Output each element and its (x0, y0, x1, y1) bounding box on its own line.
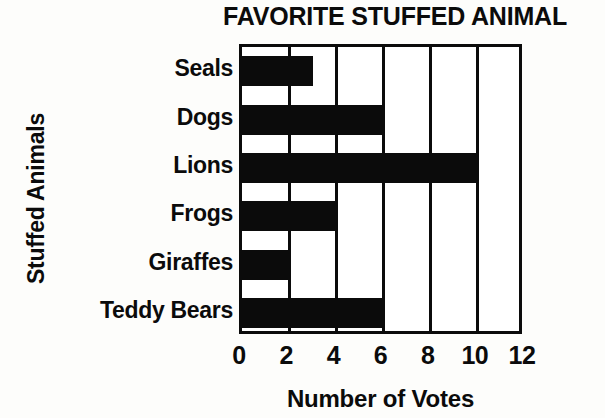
y-tick-label-teddy-bears: Teddy Bears (30, 297, 233, 323)
x-tick-label-8: 8 (405, 340, 451, 370)
bar-dogs (242, 105, 384, 135)
y-tick-label-seals: Seals (30, 55, 233, 81)
y-tick-label-dogs: Dogs (30, 104, 233, 130)
y-axis-tick-labels: SealsDogsLionsFrogsGiraffesTeddy Bears (30, 44, 233, 334)
x-axis-tick-labels: 024681012 (0, 340, 605, 374)
bar-lions (242, 153, 478, 183)
bar-row (242, 298, 525, 328)
y-tick-label-lions: Lions (30, 152, 233, 178)
bar-giraffes (242, 250, 289, 280)
x-tick-label-2: 2 (263, 340, 309, 370)
bar-chart-figure: FAVORITE STUFFED ANIMAL Stuffed Animals … (0, 0, 605, 418)
x-tick-label-0: 0 (216, 340, 262, 370)
bar-teddy-bears (242, 298, 384, 328)
y-tick-label-frogs: Frogs (30, 200, 233, 226)
x-tick-label-6: 6 (358, 340, 404, 370)
bar-frogs (242, 201, 336, 231)
bar-seals (242, 56, 313, 86)
x-tick-label-12: 12 (499, 340, 545, 370)
bar-row (242, 250, 525, 280)
x-axis-title: Number of Votes (239, 385, 522, 413)
bar-row (242, 56, 525, 86)
bar-row (242, 153, 525, 183)
plot-area (239, 44, 522, 334)
bar-row (242, 201, 525, 231)
x-tick-label-10: 10 (452, 340, 498, 370)
x-tick-label-4: 4 (310, 340, 356, 370)
bar-row (242, 105, 525, 135)
y-tick-label-giraffes: Giraffes (30, 249, 233, 275)
chart-title: FAVORITE STUFFED ANIMAL (185, 1, 605, 31)
bars-layer (242, 47, 519, 331)
